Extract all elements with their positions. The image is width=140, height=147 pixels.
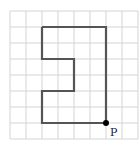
point-p-label: P	[110, 126, 118, 139]
point-p-marker	[103, 120, 109, 126]
grid-diagram: P	[0, 0, 140, 147]
